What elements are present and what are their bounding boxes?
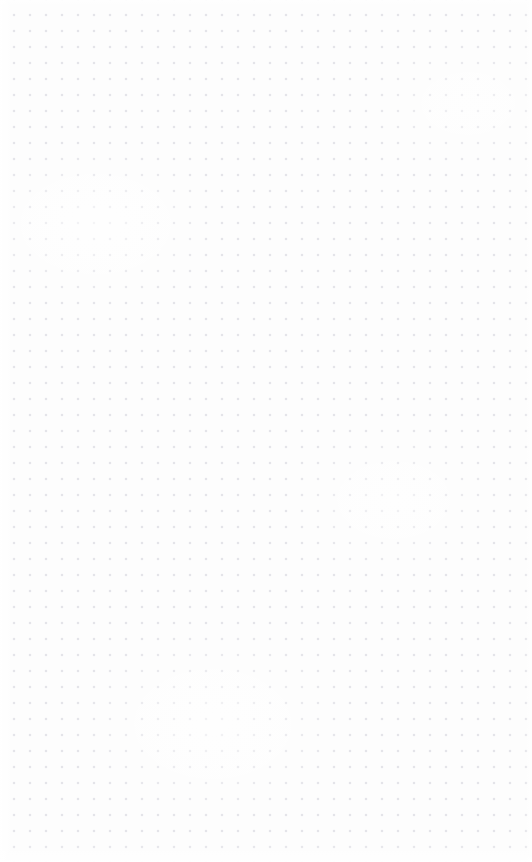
canvas-screen [0, 0, 532, 862]
dot-grid-canvas[interactable] [0, 0, 532, 862]
